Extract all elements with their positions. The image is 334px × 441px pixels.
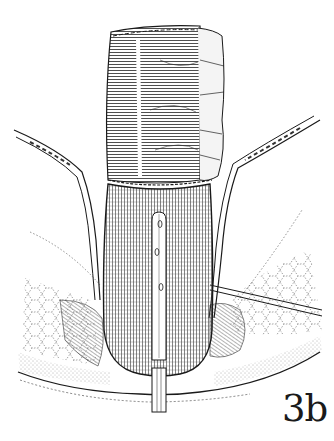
left-pelvic-wall bbox=[14, 130, 100, 300]
anatomical-illustration bbox=[0, 0, 334, 441]
figure-label: 3b bbox=[282, 387, 327, 430]
upper-bowel-segment bbox=[107, 26, 224, 183]
lower-bowel-segment bbox=[104, 184, 213, 376]
right-muscle bbox=[210, 210, 322, 357]
stapler-rod bbox=[152, 368, 166, 412]
